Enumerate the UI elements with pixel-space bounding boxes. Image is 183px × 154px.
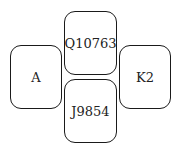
node-left: A: [10, 45, 62, 109]
node-bottom-label: J9854: [71, 104, 109, 119]
node-top-label: Q10763: [65, 36, 117, 51]
node-bottom: J9854: [64, 79, 117, 143]
node-left-label: A: [31, 70, 40, 85]
node-top: Q10763: [64, 11, 117, 75]
node-right-label: K2: [136, 70, 154, 85]
node-right: K2: [119, 45, 171, 109]
